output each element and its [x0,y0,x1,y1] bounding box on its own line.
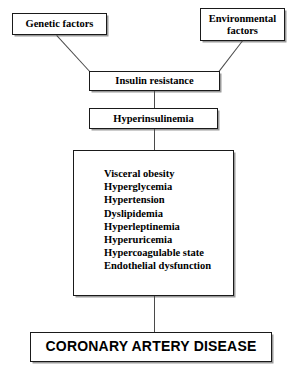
node-coronary-artery-disease: CORONARY ARTERY DISEASE [30,332,272,362]
connector-hyperinsulinemia-to-features [154,129,155,150]
feature-item: Hypertension [104,193,233,206]
node-genetic-factors-label: Genetic factors [26,18,94,30]
node-hyperinsulinemia-label: Hyperinsulinemia [113,113,194,125]
feature-item: Visceral obesity [104,167,233,180]
node-genetic-factors: Genetic factors [12,13,107,35]
connector-environmental-to-insulin-resistance [218,40,243,72]
node-hyperinsulinemia: Hyperinsulinemia [89,108,218,129]
node-coronary-artery-disease-label: CORONARY ARTERY DISEASE [45,339,256,355]
feature-item: Hyperglycemia [104,180,233,193]
node-environmental-factors-label-line1: Environmental [209,13,276,25]
flowchart-diagram: Genetic factors Environmental factors In… [0,0,293,371]
feature-item: Hyperleptinemia [104,220,233,233]
feature-item: Hypercoagulable state [104,246,233,259]
connector-features-to-coronary-artery-disease [154,296,155,332]
connector-genetic-to-insulin-resistance [56,35,90,72]
node-insulin-resistance: Insulin resistance [89,71,220,91]
node-insulin-resistance-label: Insulin resistance [115,75,193,87]
feature-item: Endothelial dysfunction [104,259,233,272]
node-metabolic-features: Visceral obesity Hyperglycemia Hypertens… [73,150,234,296]
feature-item: Hyperuricemia [104,233,233,246]
connector-insulin-resistance-to-hyperinsulinemia [154,91,155,108]
feature-item: Dyslipidemia [104,207,233,220]
node-environmental-factors-label-line2: factors [227,25,258,37]
node-environmental-factors: Environmental factors [200,8,285,41]
